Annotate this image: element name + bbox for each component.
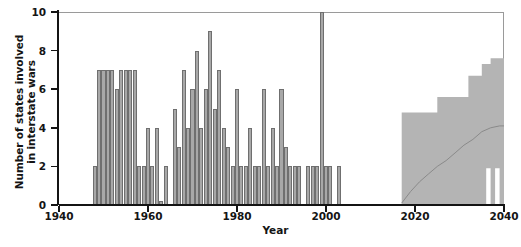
x-tick-label: 1980	[207, 210, 267, 222]
y-axis-title-line1: Number of states involved	[14, 12, 26, 212]
y-axis-title: Number of states involved in interstate …	[14, 12, 34, 212]
plot-frame-right	[503, 12, 504, 205]
y-tick-label: 2	[0, 160, 46, 172]
bar	[164, 166, 168, 205]
x-tick-label: 1940	[29, 210, 89, 222]
y-axis-line	[57, 10, 59, 205]
y-tick-label: 6	[0, 83, 46, 95]
plot-frame-top	[59, 12, 504, 13]
x-tick-label: 2020	[385, 210, 445, 222]
bar	[155, 128, 159, 205]
y-tick-label: 8	[0, 45, 46, 57]
x-axis-line	[59, 204, 505, 206]
x-axis-title-text: Year	[262, 224, 288, 236]
chart-figure: Number of states involved in interstate …	[0, 0, 521, 247]
x-tick-label: 1960	[118, 210, 178, 222]
y-axis-title-line2: in interstate wars	[26, 12, 38, 212]
bar	[328, 166, 332, 205]
x-tick-label: 2000	[296, 210, 356, 222]
x-tick-label: 2040	[474, 210, 521, 222]
bar	[297, 166, 301, 205]
y-tick-label: 10	[0, 6, 46, 18]
y-tick-label: 4	[0, 122, 46, 134]
x-axis-title: Year	[0, 224, 521, 236]
bar	[337, 166, 341, 205]
